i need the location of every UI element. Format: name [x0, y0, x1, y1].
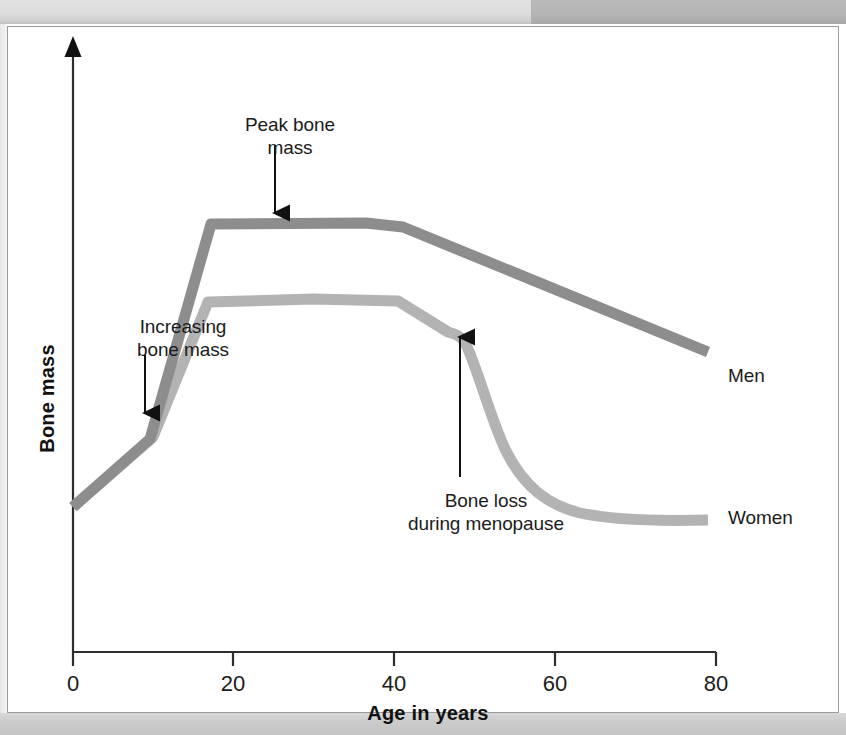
figure-page: Peak bone mass Increasing bone mass Bone…: [0, 0, 846, 735]
series-label-women: Women: [728, 507, 793, 529]
series-line-men: [73, 223, 708, 507]
page-scan-band-left: [0, 24, 7, 713]
x-axis-title: Age in years: [278, 702, 578, 725]
x-tick-label-40: 40: [369, 671, 419, 697]
annotation-bone-loss-menopause: Bone loss during menopause: [378, 489, 594, 535]
annotation-increasing-bone-mass: Increasing bone mass: [88, 315, 278, 361]
bone-mass-line-chart: [8, 27, 838, 712]
chart-figure: Peak bone mass Increasing bone mass Bone…: [7, 26, 839, 713]
page-scan-band-top-left: [0, 0, 531, 24]
page-scan-band-top-right: [531, 0, 846, 24]
annotation-peak-bone-mass: Peak bone mass: [198, 113, 382, 159]
y-axis-title: Bone mass: [36, 334, 59, 464]
x-tick-label-80: 80: [691, 671, 741, 697]
series-label-men: Men: [728, 365, 765, 387]
x-tick-label-60: 60: [530, 671, 580, 697]
x-tick-label-20: 20: [208, 671, 258, 697]
y-axis-arrow-icon: [65, 36, 82, 57]
x-tick-label-0: 0: [48, 671, 98, 697]
